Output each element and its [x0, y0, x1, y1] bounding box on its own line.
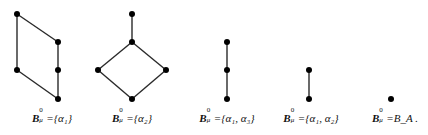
label-base: B [112, 112, 119, 124]
node-dot [14, 67, 20, 73]
node-dot [224, 67, 230, 73]
hasse-diagram-1 [14, 11, 61, 102]
label-set: ={α₁, α₂} [298, 112, 339, 124]
label-base: B [32, 112, 39, 124]
label-sup: 0 [119, 106, 123, 114]
edge-line [17, 14, 58, 42]
node-dot [306, 96, 312, 102]
node-dot [129, 39, 135, 45]
hasse-diagram-3 [224, 39, 230, 102]
hasse-diagram-4 [306, 67, 312, 102]
label-diagram-3: B0μ={α₁, α₃} [199, 112, 254, 124]
label-base: B [372, 112, 379, 124]
hasse-diagram-5 [388, 96, 394, 102]
edge-line [132, 42, 166, 70]
label-base: B [199, 112, 206, 124]
label-sup: 0 [207, 106, 211, 114]
node-dot [129, 11, 135, 17]
label-sub: μ [291, 116, 295, 124]
node-dot [224, 39, 230, 45]
label-sup: 0 [39, 106, 43, 114]
label-base: B [283, 112, 290, 124]
label-sub: μ [39, 116, 43, 124]
edge-line [98, 70, 132, 99]
label-set: ={α₁} [46, 112, 72, 124]
node-dot [306, 67, 312, 73]
label-sub: μ [379, 116, 383, 124]
label-sub: μ [119, 116, 123, 124]
node-dot [95, 67, 101, 73]
label-set: ={α₁, α₃} [214, 112, 255, 124]
edge-line [17, 70, 58, 99]
label-diagram-5: B0μ=B_A . [372, 112, 418, 124]
edge-line [98, 42, 132, 70]
node-dot [129, 96, 135, 102]
hasse-diagram-2 [95, 11, 169, 102]
label-sup: 0 [379, 106, 383, 114]
node-dot [388, 96, 394, 102]
label-set: ={α₂} [126, 112, 152, 124]
node-dot [163, 67, 169, 73]
node-dot [55, 96, 61, 102]
node-dot [224, 96, 230, 102]
edge-line [132, 70, 166, 99]
label-sub: μ [207, 116, 211, 124]
label-diagram-2: B0μ={α₂} [112, 112, 152, 124]
label-sup: 0 [291, 106, 295, 114]
label-diagram-1: B0μ={α₁} [32, 112, 72, 124]
node-dot [55, 67, 61, 73]
node-dot [55, 39, 61, 45]
label-diagram-4: B0μ={α₁, α₂} [283, 112, 338, 124]
node-dot [14, 11, 20, 17]
label-set: =B_A . [386, 112, 418, 124]
